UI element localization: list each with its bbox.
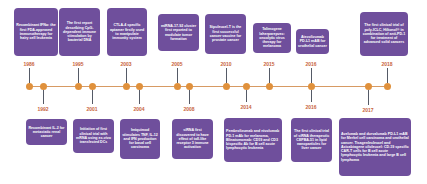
event-text: The first clinical trial of poly-ICLC, H… (362, 23, 406, 44)
timeline-dot-2001 (89, 83, 96, 90)
event-card-2018: The first clinical trial of poly-ICLC, H… (360, 12, 408, 56)
event-card-2010: Sipuleucel-T is the first successful can… (205, 14, 246, 54)
timeline-dot-2010 (223, 83, 230, 90)
event-text: Initiation of first clinical trial with … (75, 127, 112, 144)
connector-2017 (368, 90, 369, 105)
event-text: The first clinical trial of siRNA therap… (293, 129, 330, 150)
year-label-2018: 2018 (375, 61, 399, 67)
timeline-dot-2003 (123, 83, 130, 90)
year-label-2016-top: 2016 (299, 61, 323, 67)
event-text: Imiquimod stimulates TNF, IL-12 and IFN … (122, 128, 158, 149)
event-card-2005: miRNA-17-92 cluster first reported to mo… (158, 14, 199, 51)
timeline-dot-2017 (365, 83, 372, 90)
year-label-2003: 2003 (114, 61, 138, 67)
year-label-2004: 2004 (127, 106, 151, 112)
year-label-2010: 2010 (214, 61, 238, 67)
year-label-2015: 2015 (257, 61, 281, 67)
connector-2005 (177, 68, 178, 83)
event-text: CTLA-4 specific aptamer firstly used to … (109, 23, 145, 40)
event-card-2015: Talimogene laherparepvec: oncolytic viru… (253, 23, 291, 53)
event-text: Pembrolizumab and nivolumab PD-1 mAb for… (226, 129, 280, 150)
timeline-axis (27, 86, 391, 87)
timeline-dot-2014 (243, 83, 250, 90)
connector-2015 (269, 68, 270, 83)
event-text: Recombinant IL-2 for metastatic renal ca… (28, 126, 65, 139)
event-card-1986: Recombinant IFNα: the first FDA-approved… (14, 8, 58, 56)
timeline-dot-1992 (40, 83, 47, 90)
year-label-2017: 2017 (356, 107, 380, 113)
event-card-2001: Initiation of first clinical trial with … (73, 119, 114, 153)
timeline-dot-1995 (75, 83, 82, 90)
event-card-2016-top: Atezolizumab PD-L1 mAB for urothelial ca… (296, 29, 329, 54)
timeline-dot-2016 (308, 83, 315, 90)
connector-2014 (246, 90, 247, 102)
year-label-2016-bottom: 2016 (299, 104, 323, 110)
timeline-dot-2004 (136, 83, 143, 90)
year-label-2001: 2001 (80, 106, 104, 112)
connector-2016-top (311, 68, 312, 83)
year-label-2005: 2005 (165, 61, 189, 67)
event-text: Atezolizumab PD-L1 mAB for urothelial ca… (298, 35, 327, 48)
connector-2001 (92, 90, 93, 104)
event-text: Sipuleucel-T is the first successful can… (207, 25, 244, 42)
event-card-1992: Recombinant IL-2 for metastatic renal ca… (26, 119, 67, 145)
connector-1986 (29, 68, 30, 83)
event-text: siRNA first discovered to have effect of… (174, 128, 211, 149)
connector-1995 (78, 68, 79, 83)
connector-2016-bottom (311, 90, 312, 102)
event-card-2003: CTLA-4 specific aptamer firstly used to … (107, 8, 147, 56)
connector-2003 (126, 68, 127, 83)
event-text: Recombinant IFNα: the first FDA-approved… (16, 23, 56, 40)
timeline-dot-1986 (26, 83, 33, 90)
timeline-dot-2005 (174, 83, 181, 90)
connector-2004 (139, 90, 140, 104)
timeline-dot-2008 (186, 83, 193, 90)
year-label-1995: 1995 (66, 61, 90, 67)
year-label-2008: 2008 (177, 106, 201, 112)
timeline-dot-2015 (266, 83, 273, 90)
connector-2010 (226, 68, 227, 83)
event-card-2017: Avelumab and durvalumab PD-L1 mAB for Me… (339, 118, 411, 176)
year-label-2014: 2014 (234, 104, 258, 110)
event-text: miRNA-17-92 cluster first reported to mo… (160, 24, 197, 41)
year-label-1992: 1992 (31, 106, 55, 112)
event-card-2004: Imiquimod stimulates TNF, IL-12 and IFN … (120, 119, 160, 159)
connector-2008 (189, 90, 190, 104)
event-card-2016-bottom: The first clinical trial of siRNA therap… (291, 118, 332, 162)
event-text: The first report describing CpG-dependen… (61, 21, 98, 42)
connector-2018 (387, 68, 388, 83)
event-card-1995: The first report describing CpG-dependen… (59, 8, 100, 56)
event-text: Talimogene laherparepvec: oncolytic viru… (255, 27, 289, 48)
timeline-dot-2018 (384, 83, 391, 90)
event-text: Avelumab and durvalumab PD-L1 mAB for Me… (341, 132, 409, 162)
event-card-2014: Pembrolizumab and nivolumab PD-1 mAb for… (224, 118, 282, 162)
event-card-2008: siRNA first discovered to have effect of… (172, 119, 213, 159)
year-label-1986: 1986 (17, 61, 41, 67)
connector-1992 (43, 90, 44, 104)
